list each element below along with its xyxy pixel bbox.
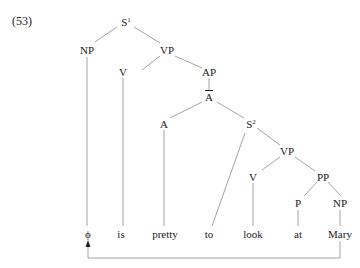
- node-p: P: [295, 197, 301, 209]
- node-ap: AP: [202, 66, 216, 78]
- edge-vp2-pp: [295, 157, 315, 171]
- edge-abar-a: [170, 102, 202, 118]
- node-vp-main: VP: [160, 44, 174, 56]
- example-number: (53): [12, 14, 32, 29]
- edge-vp-ap: [175, 56, 202, 68]
- node-a-bar: A: [205, 91, 213, 103]
- terminal-at: at: [294, 228, 302, 240]
- node-v-is: V: [119, 66, 127, 78]
- edge-s2-to: [212, 133, 245, 226]
- node-s2: S2: [246, 118, 256, 130]
- terminal-look: look: [243, 228, 263, 240]
- terminal-mary: Mary: [328, 228, 352, 240]
- arrow-head-icon: [86, 240, 91, 247]
- node-vp-infinitive: VP: [280, 145, 294, 157]
- edge-vp-v: [142, 56, 160, 70]
- movement-arrow-line: [88, 241, 340, 258]
- tree-edges: [0, 0, 360, 268]
- node-a: A: [160, 118, 168, 130]
- edge-s1-np: [95, 27, 117, 42]
- terminal-pretty: pretty: [152, 228, 178, 240]
- node-np-subject: NP: [80, 44, 94, 56]
- node-np-object: NP: [333, 197, 347, 209]
- terminal-to: to: [205, 228, 214, 240]
- edge-pp-p: [304, 182, 317, 196]
- node-pp: PP: [317, 171, 329, 183]
- edge-pp-np: [328, 182, 341, 196]
- edge-vp2-v: [262, 157, 280, 170]
- edge-abar-s2: [217, 102, 244, 118]
- node-v-look: V: [249, 171, 257, 183]
- node-s1: S1: [121, 16, 131, 28]
- edge-s1-vp: [134, 27, 160, 43]
- terminal-phi: ϕ: [85, 228, 91, 240]
- edge-s2-vp: [257, 128, 280, 145]
- terminal-is: is: [117, 228, 124, 240]
